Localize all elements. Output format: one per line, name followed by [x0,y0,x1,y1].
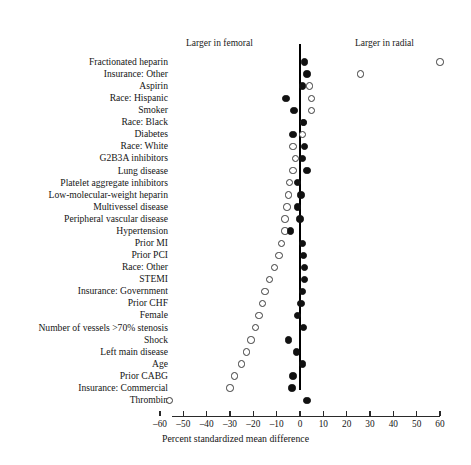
x-axis-tick [299,411,300,416]
x-axis-tick [416,411,417,416]
x-axis-tick [276,411,277,416]
x-axis-tick-label: 60 [425,419,455,429]
x-axis: –60–50–40–30–20–100102030405060 Percent … [0,0,471,465]
x-axis-tick [183,411,184,416]
x-axis-tick [393,411,394,416]
chart-root: Larger in femoral Larger in radial Fract… [0,0,471,465]
x-axis-tick [159,411,160,416]
x-axis-tick [439,411,440,416]
x-axis-tick [369,411,370,416]
x-axis-tick [346,411,347,416]
x-axis-tick [229,411,230,416]
x-axis-tick [206,411,207,416]
x-axis-line [172,416,440,417]
x-axis-tick [253,411,254,416]
x-axis-label: Percent standardized mean difference [0,433,471,444]
x-axis-tick [323,411,324,416]
